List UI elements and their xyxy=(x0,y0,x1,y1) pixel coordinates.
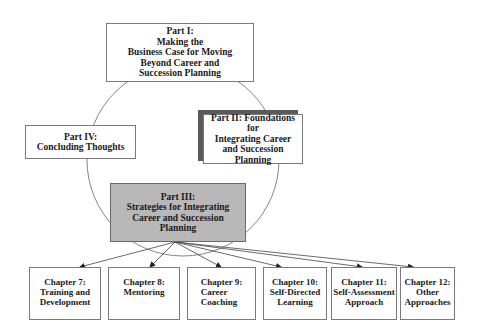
chapter12-box: Chapter 12: Other Approaches xyxy=(400,267,455,320)
part3-label: Part III: Strategies for Integrating Car… xyxy=(127,192,230,234)
chapter10-label: Chapter 10: Self-Directed Learning xyxy=(270,277,320,307)
chapter7-label: Chapter 7: Training and Development xyxy=(40,277,91,307)
part3-box: Part III: Strategies for Integrating Car… xyxy=(110,183,246,242)
chapter10-box: Chapter 10: Self-Directed Learning xyxy=(263,267,327,320)
part2-label: Part II: Foundations for Integrating Car… xyxy=(204,113,302,166)
part2-box: Part II: Foundations for Integrating Car… xyxy=(203,114,303,164)
chapter8-label: Chapter 8: Mentoring xyxy=(123,277,165,297)
part4-box: Part IV: Concluding Thoughts xyxy=(25,125,136,159)
chapter9-label: Chapter 9: Career Coaching xyxy=(201,277,243,307)
chapter7-box: Chapter 7: Training and Development xyxy=(29,267,101,320)
part4-label: Part IV: Concluding Thoughts xyxy=(37,132,125,153)
chapter9-box: Chapter 9: Career Coaching xyxy=(187,267,256,320)
chapter-arrows xyxy=(80,242,413,267)
part1-box: Part I: Making the Business Case for Mov… xyxy=(106,23,254,82)
chapter11-box: Chapter 11: Self-Assessment Approach xyxy=(331,267,397,320)
chapter12-label: Chapter 12: Other Approaches xyxy=(404,277,450,307)
part1-label: Part I: Making the Business Case for Mov… xyxy=(128,26,233,79)
chapter8-box: Chapter 8: Mentoring xyxy=(108,267,180,320)
chapter11-label: Chapter 11: Self-Assessment Approach xyxy=(333,277,395,307)
